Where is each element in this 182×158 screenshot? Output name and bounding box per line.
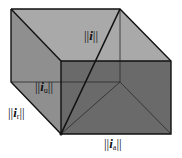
label-u-norm: ||iu|| <box>35 80 53 95</box>
label-a-norm: ||ia|| <box>104 137 122 152</box>
norm-bars-right: || <box>48 79 53 94</box>
box-diagram <box>0 0 182 158</box>
label-r-norm: ||ir|| <box>8 106 25 121</box>
label-total-norm: ||i|| <box>84 29 98 44</box>
norm-bars-right: || <box>93 28 98 43</box>
norm-bars-right: || <box>116 136 121 151</box>
norm-bars-right: || <box>20 105 25 120</box>
origin-vertex <box>60 133 63 136</box>
